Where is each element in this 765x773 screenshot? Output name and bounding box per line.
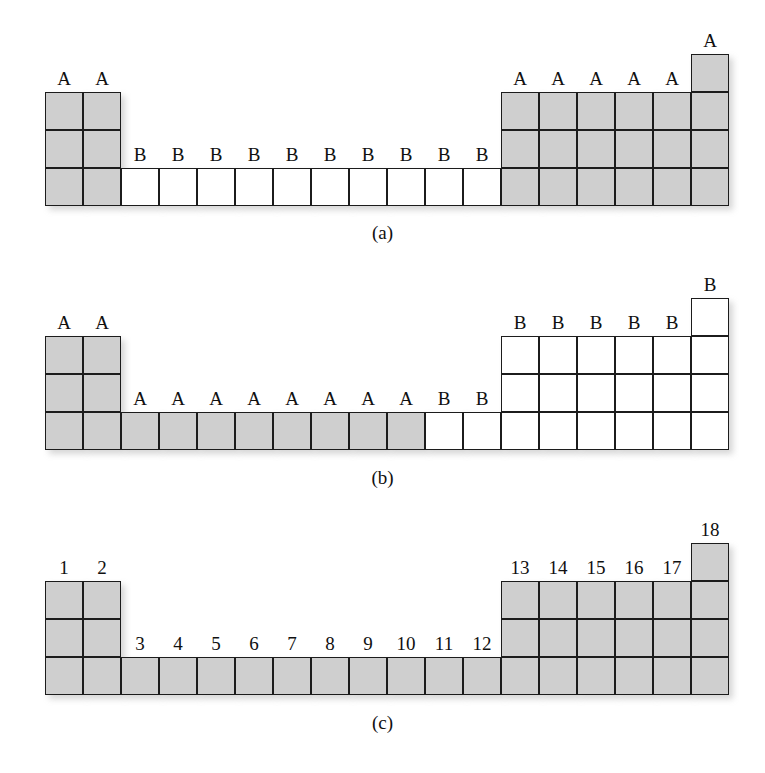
table-cell (45, 92, 83, 130)
column-label: B (653, 313, 691, 332)
table-cell (235, 168, 273, 206)
table-cell (83, 619, 121, 657)
table-cell (501, 657, 539, 695)
table-cell (197, 657, 235, 695)
table-cell (349, 412, 387, 450)
panel-caption: (a) (0, 222, 765, 243)
column-label: 10 (387, 634, 425, 653)
column-label: A (121, 389, 159, 408)
table-cell (615, 412, 653, 450)
table-cell (539, 130, 577, 168)
table-cell (273, 657, 311, 695)
table-cell (349, 168, 387, 206)
table-cell (197, 412, 235, 450)
table-cell (463, 168, 501, 206)
table-cell (691, 336, 729, 374)
table-cell (83, 581, 121, 619)
column-label: 14 (539, 558, 577, 577)
table-cell (501, 619, 539, 657)
table-cell (273, 412, 311, 450)
table-cell (425, 412, 463, 450)
table-cell (691, 374, 729, 412)
table-cell (691, 619, 729, 657)
table-cell (691, 298, 729, 336)
column-label: B (425, 145, 463, 164)
table-cell (45, 374, 83, 412)
column-label: A (387, 389, 425, 408)
table-cell (577, 336, 615, 374)
table-cell (463, 657, 501, 695)
table-cell (615, 168, 653, 206)
column-label: B (159, 145, 197, 164)
table-cell (691, 92, 729, 130)
table-cell (83, 657, 121, 695)
column-label: A (235, 389, 273, 408)
table-cell (45, 619, 83, 657)
table-cell (577, 168, 615, 206)
table-cell (539, 92, 577, 130)
table-cell (653, 92, 691, 130)
column-label: 18 (691, 520, 729, 539)
table-cell (539, 374, 577, 412)
table-cell (387, 657, 425, 695)
table-cell (387, 168, 425, 206)
table-cell (197, 168, 235, 206)
table-cell (45, 336, 83, 374)
table-cell (311, 657, 349, 695)
table-cell (653, 168, 691, 206)
table-cell (311, 168, 349, 206)
column-label: B (539, 313, 577, 332)
table-cell (539, 619, 577, 657)
table-cell (235, 412, 273, 450)
table-cell (615, 336, 653, 374)
column-label: A (273, 389, 311, 408)
column-label: B (235, 145, 273, 164)
table-cell (539, 657, 577, 695)
table-cell (539, 336, 577, 374)
column-label: A (197, 389, 235, 408)
table-cell (577, 374, 615, 412)
table-cell (615, 92, 653, 130)
table-cell (121, 168, 159, 206)
column-label: B (615, 313, 653, 332)
column-label: B (311, 145, 349, 164)
periodic-table-group-numbering-figure: AABBBBBBBBBBAAAAAA(a)AAAAAAAAAABBBBBBBB(… (0, 0, 765, 773)
table-cell (463, 412, 501, 450)
table-cell (425, 657, 463, 695)
table-cell (83, 130, 121, 168)
table-cell (691, 412, 729, 450)
table-cell (83, 92, 121, 130)
column-label: A (501, 69, 539, 88)
table-cell (159, 412, 197, 450)
table-cell (501, 92, 539, 130)
table-cell (691, 581, 729, 619)
table-cell (539, 412, 577, 450)
column-label: A (653, 69, 691, 88)
column-label: 9 (349, 634, 387, 653)
table-cell (501, 336, 539, 374)
column-label: 8 (311, 634, 349, 653)
table-cell (653, 581, 691, 619)
table-cell (615, 619, 653, 657)
column-label: A (691, 31, 729, 50)
table-cell (653, 336, 691, 374)
table-cell (273, 168, 311, 206)
column-label: A (159, 389, 197, 408)
column-label: 11 (425, 634, 463, 653)
column-label: B (691, 275, 729, 294)
table-cell (159, 168, 197, 206)
table-cell (501, 581, 539, 619)
table-cell (501, 374, 539, 412)
table-cell (121, 412, 159, 450)
table-cell (615, 374, 653, 412)
table-cell (539, 168, 577, 206)
table-cell (577, 581, 615, 619)
column-label: A (45, 313, 83, 332)
column-label: A (311, 389, 349, 408)
column-label: B (387, 145, 425, 164)
table-cell (45, 581, 83, 619)
table-cell (425, 168, 463, 206)
table-cell (691, 657, 729, 695)
column-label: B (197, 145, 235, 164)
table-cell (653, 619, 691, 657)
